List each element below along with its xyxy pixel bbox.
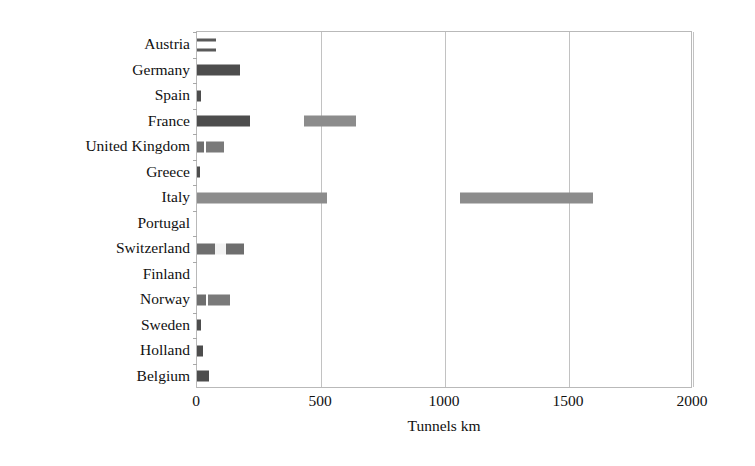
x-tick-label-1000: 1000 bbox=[429, 392, 460, 410]
category-tickmark bbox=[193, 364, 197, 365]
bar-row-sweden bbox=[197, 313, 691, 339]
category-tickmark bbox=[193, 313, 197, 314]
category-label-italy: Italy bbox=[4, 184, 190, 210]
bar-segment bbox=[197, 65, 240, 76]
x-tick-label-1500: 1500 bbox=[553, 392, 584, 410]
bar-segment bbox=[197, 192, 327, 203]
category-axis-labels: AustriaGermanySpainFranceUnited KingdomG… bbox=[0, 31, 190, 388]
plot-area bbox=[196, 31, 692, 388]
bar-segment bbox=[197, 90, 201, 101]
category-tickmark bbox=[193, 211, 197, 212]
category-label-norway: Norway bbox=[4, 286, 190, 312]
bar-row-france bbox=[197, 109, 691, 135]
x-tick-label-500: 500 bbox=[308, 392, 331, 410]
bar-segment bbox=[197, 38, 216, 51]
category-tickmark bbox=[193, 160, 197, 161]
category-tickmark bbox=[193, 338, 197, 339]
bar-row-finland bbox=[197, 262, 691, 288]
category-tickmark bbox=[193, 83, 197, 84]
category-tickmark bbox=[193, 58, 197, 59]
x-tick-label-2000: 2000 bbox=[677, 392, 708, 410]
category-tickmark bbox=[193, 109, 197, 110]
category-label-austria: Austria bbox=[4, 31, 190, 57]
bar-row-belgium bbox=[197, 364, 691, 390]
category-label-portugal: Portugal bbox=[4, 210, 190, 236]
bar-segment bbox=[197, 167, 200, 178]
category-label-switzerland: Switzerland bbox=[4, 235, 190, 261]
bar-segment bbox=[197, 371, 209, 382]
bar-segment bbox=[197, 116, 250, 127]
bar-segment bbox=[197, 320, 201, 331]
category-tickmark bbox=[193, 134, 197, 135]
x-axis-title: Tunnels km bbox=[196, 417, 692, 435]
bar-row-germany bbox=[197, 58, 691, 84]
category-label-greece: Greece bbox=[4, 159, 190, 185]
bar-row-greece bbox=[197, 160, 691, 186]
category-tickmark bbox=[193, 236, 197, 237]
bar-segment bbox=[197, 243, 244, 254]
category-label-holland: Holland bbox=[4, 337, 190, 363]
bar-row-norway bbox=[197, 287, 691, 313]
bar-segment bbox=[304, 116, 356, 127]
bar-row-holland bbox=[197, 338, 691, 364]
gridline-2000 bbox=[693, 32, 694, 387]
bar-row-austria bbox=[197, 32, 691, 58]
bar-segment bbox=[197, 141, 224, 152]
category-label-germany: Germany bbox=[4, 57, 190, 83]
bar-segment bbox=[197, 345, 203, 356]
category-tickmark bbox=[193, 185, 197, 186]
category-label-spain: Spain bbox=[4, 82, 190, 108]
category-tickmark bbox=[193, 32, 197, 33]
x-axis-tick-labels: 0500100015002000 bbox=[196, 392, 692, 416]
bar-segment bbox=[460, 192, 593, 203]
bar-segment bbox=[197, 294, 230, 305]
category-label-france: France bbox=[4, 108, 190, 134]
bar-row-spain bbox=[197, 83, 691, 109]
bar-row-italy bbox=[197, 185, 691, 211]
category-label-belgium: Belgium bbox=[4, 363, 190, 389]
category-tickmark bbox=[193, 262, 197, 263]
bar-row-portugal bbox=[197, 211, 691, 237]
category-tickmark bbox=[193, 287, 197, 288]
tunnels-km-bar-chart: AustriaGermanySpainFranceUnited KingdomG… bbox=[0, 0, 755, 466]
category-label-finland: Finland bbox=[4, 261, 190, 287]
bar-row-switzerland bbox=[197, 236, 691, 262]
x-tick-label-0: 0 bbox=[192, 392, 200, 410]
category-label-sweden: Sweden bbox=[4, 312, 190, 338]
bar-row-united-kingdom bbox=[197, 134, 691, 160]
category-label-united-kingdom: United Kingdom bbox=[4, 133, 190, 159]
